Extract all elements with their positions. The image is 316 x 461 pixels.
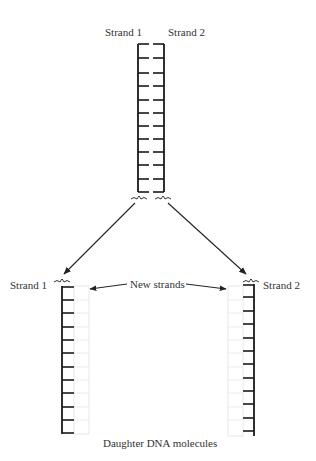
right-brace-icon	[155, 196, 171, 199]
parent-rungs	[138, 44, 164, 192]
parent-strand2-label: Strand 2	[168, 26, 205, 38]
arrow-to-left-daughter	[64, 203, 135, 274]
arrow-to-left-new-strand	[90, 284, 127, 289]
daughter-molecules-caption: Daughter DNA molecules	[103, 437, 217, 449]
left-brace-icon	[131, 196, 147, 199]
new-strands-label: New strands	[130, 278, 185, 290]
fork-braces	[131, 196, 171, 199]
parent-dna-ladder	[138, 44, 164, 192]
left-new-strand-rungs	[74, 300, 89, 420]
arrow-to-right-new-strand	[186, 284, 226, 289]
left-new-strand	[74, 286, 89, 434]
right-new-strand-rungs	[228, 300, 243, 420]
parent-strand1-label: Strand 1	[105, 26, 142, 38]
right-daughter-ladder	[228, 284, 254, 436]
right-old-strand-rungs	[243, 285, 254, 431]
arrow-to-right-daughter	[168, 203, 246, 274]
dna-replication-diagram: Strand 1 Strand 2 Strand 1 Strand 2	[0, 0, 316, 461]
right-daughter-brace-icon	[243, 279, 259, 282]
left-daughter-brace-icon	[54, 279, 70, 282]
left-daughter-strand1-label: Strand 1	[10, 279, 47, 291]
left-old-strand-rungs	[62, 287, 74, 433]
left-daughter-ladder	[62, 286, 89, 434]
right-new-strand	[228, 286, 243, 436]
right-daughter-strand2-label: Strand 2	[263, 279, 300, 291]
